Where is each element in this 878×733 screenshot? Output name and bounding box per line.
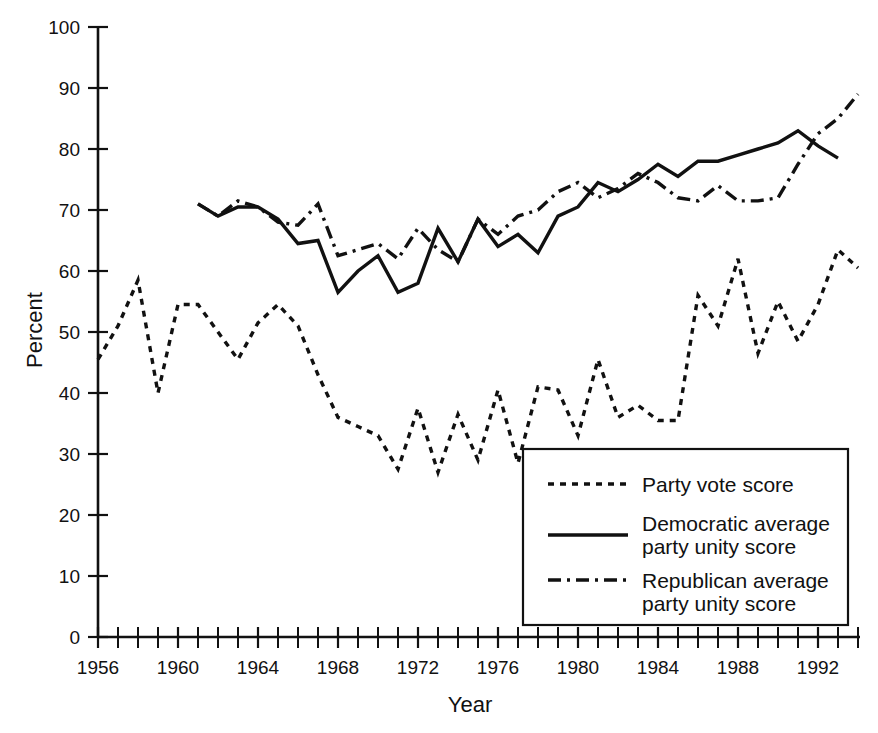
x-tick-label-1984: 1984 bbox=[637, 657, 680, 678]
chart-figure: 0102030405060708090100 19561960196419681… bbox=[0, 0, 878, 733]
y-tick-label-20: 20 bbox=[59, 505, 80, 526]
legend-label-republican-line2: party unity score bbox=[642, 592, 796, 615]
series-group bbox=[98, 94, 858, 472]
y-tick-label-70: 70 bbox=[59, 200, 80, 221]
chart-legend: Party vote score Democratic average part… bbox=[523, 449, 848, 625]
y-tick-label-90: 90 bbox=[59, 78, 80, 99]
legend-label-democratic-line1: Democratic average bbox=[642, 512, 830, 535]
x-tick-label-1980: 1980 bbox=[557, 657, 599, 678]
y-tick-label-100: 100 bbox=[48, 17, 80, 38]
x-tick-label-1968: 1968 bbox=[317, 657, 359, 678]
x-axis-tick-labels: 1956196019641968197219761980198419881992 bbox=[77, 657, 839, 678]
x-tick-label-1976: 1976 bbox=[477, 657, 519, 678]
x-tick-label-1956: 1956 bbox=[77, 657, 119, 678]
x-axis-title: Year bbox=[448, 692, 492, 717]
series-republican-average-party-unity-score bbox=[198, 94, 858, 262]
legend-label-party-vote-score: Party vote score bbox=[642, 473, 794, 496]
y-tick-label-60: 60 bbox=[59, 261, 80, 282]
y-axis-title: Percent bbox=[22, 292, 47, 368]
x-tick-label-1988: 1988 bbox=[717, 657, 759, 678]
legend-label-republican-line1: Republican average bbox=[642, 569, 829, 592]
y-tick-label-50: 50 bbox=[59, 322, 80, 343]
y-axis-tick-labels: 0102030405060708090100 bbox=[48, 17, 80, 648]
legend-label-democratic-line2: party unity score bbox=[642, 535, 796, 558]
x-tick-label-1960: 1960 bbox=[157, 657, 199, 678]
x-tick-label-1972: 1972 bbox=[397, 657, 439, 678]
series-democratic-average-party-unity-score bbox=[198, 131, 838, 293]
y-tick-label-0: 0 bbox=[69, 627, 80, 648]
series-party-vote-score bbox=[98, 250, 858, 473]
y-tick-label-10: 10 bbox=[59, 566, 80, 587]
y-tick-label-80: 80 bbox=[59, 139, 80, 160]
line-chart: 0102030405060708090100 19561960196419681… bbox=[0, 0, 878, 733]
x-tick-label-1992: 1992 bbox=[797, 657, 839, 678]
x-tick-label-1964: 1964 bbox=[237, 657, 280, 678]
y-tick-label-30: 30 bbox=[59, 444, 80, 465]
y-tick-label-40: 40 bbox=[59, 383, 80, 404]
